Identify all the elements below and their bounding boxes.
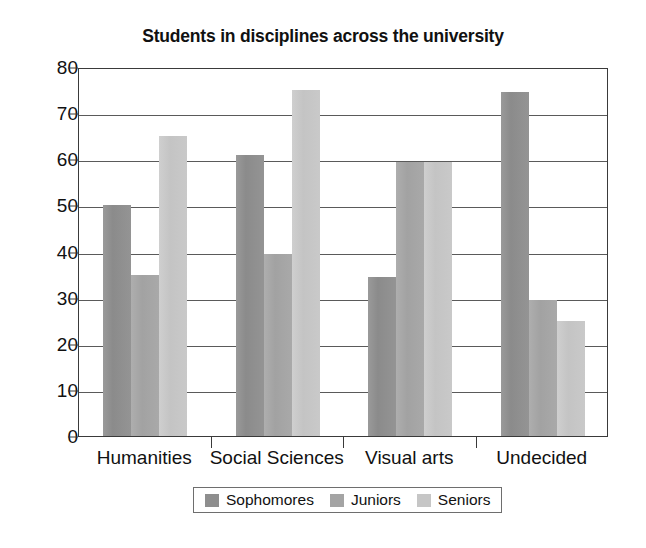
y-axis-tick-marks [68, 68, 78, 437]
bar-undecided-seniors [557, 321, 585, 436]
bar-social-sciences-sophomores [236, 155, 264, 436]
bar-group [501, 69, 585, 436]
legend-item-seniors: Seniors [417, 491, 491, 509]
x-axis-tick-label: Visual arts [365, 447, 453, 469]
y-axis-tick-mark [68, 437, 78, 438]
chart-legend: SophomoresJuniorsSeniors [193, 487, 502, 513]
legend-item-sophomores: Sophomores [205, 491, 314, 509]
x-axis-tick-label: Humanities [97, 447, 192, 469]
legend-swatch-icon [330, 494, 344, 507]
y-axis-tick-mark [68, 206, 78, 207]
y-axis-tick-mark [68, 160, 78, 161]
bar-visual-arts-seniors [424, 162, 452, 436]
legend-swatch-icon [205, 494, 219, 507]
bar-undecided-juniors [529, 300, 557, 436]
legend-label: Juniors [351, 491, 401, 509]
bar-visual-arts-sophomores [368, 277, 396, 436]
y-axis-tick-mark [68, 298, 78, 299]
legend-swatch-icon [417, 494, 431, 507]
bar-group [368, 69, 452, 436]
y-axis-tick-mark [68, 390, 78, 391]
bar-undecided-sophomores [501, 92, 529, 436]
legend-label: Sophomores [226, 491, 314, 509]
bar-social-sciences-juniors [264, 254, 292, 436]
bar-visual-arts-juniors [396, 162, 424, 436]
plot-area [78, 68, 608, 437]
bar-chart-figure: Students in disciplines across the unive… [0, 0, 646, 548]
bar-humanities-sophomores [103, 205, 131, 436]
x-axis-tick-labels: HumanitiesSocial SciencesVisual artsUnde… [78, 447, 608, 475]
chart-title: Students in disciplines across the unive… [0, 26, 646, 47]
y-axis-tick-mark [68, 68, 78, 69]
y-axis-tick-mark [68, 252, 78, 253]
x-axis-tick-label: Undecided [496, 447, 587, 469]
bar-humanities-juniors [131, 275, 159, 436]
bar-social-sciences-seniors [292, 90, 320, 436]
legend-item-juniors: Juniors [330, 491, 401, 509]
y-axis-tick-mark [68, 344, 78, 345]
bar-group [103, 69, 187, 436]
bar-humanities-seniors [159, 136, 187, 436]
bar-group [236, 69, 320, 436]
y-axis-tick-mark [68, 114, 78, 115]
x-axis-tick-label: Social Sciences [210, 447, 344, 469]
legend-label: Seniors [438, 491, 491, 509]
